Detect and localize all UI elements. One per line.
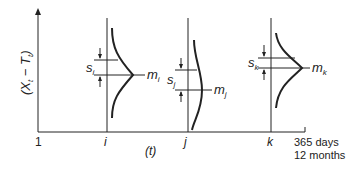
x-tick-end-months: 12 months [294, 149, 346, 161]
mean-label-j: mj [214, 82, 227, 99]
sd-label-k: sk [248, 55, 260, 72]
distribution-diagram: (Xt − Tt) si sj sk mi mj mk 1 i j k 365 … [0, 0, 364, 171]
x-tick-j: j [182, 135, 187, 149]
arrowhead-icon [179, 91, 183, 96]
x-tick-i: i [104, 135, 107, 149]
distribution-curve-j [192, 40, 202, 130]
mean-label-k: mk [312, 60, 328, 77]
arrowhead-icon [262, 69, 266, 74]
distribution-curve-i [112, 28, 133, 118]
sd-label-i: si [86, 60, 95, 77]
distribution-curve-k [276, 33, 302, 108]
x-axis-label: (t) [145, 144, 156, 158]
x-tick-end-days: 365 days [294, 136, 339, 148]
sd-label-j: sj [167, 72, 176, 89]
arrowhead-icon [98, 54, 102, 59]
mean-label-i: mi [147, 67, 160, 84]
x-tick-k: k [267, 135, 274, 149]
arrowhead-icon [262, 52, 266, 57]
arrowhead-icon [179, 64, 183, 69]
y-axis-arrow-icon [35, 8, 41, 15]
x-tick-start: 1 [35, 135, 42, 149]
arrowhead-icon [98, 76, 102, 81]
y-axis-label: (Xt − Tt) [18, 50, 35, 95]
